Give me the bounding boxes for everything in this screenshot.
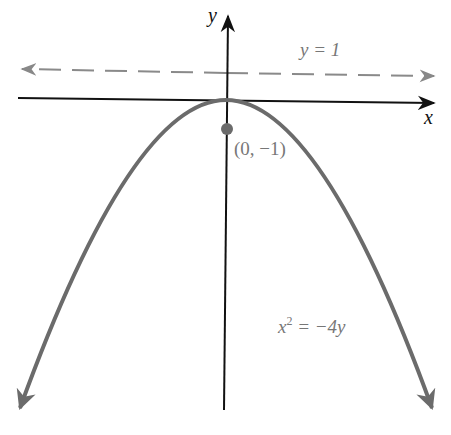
- parabola-diagram: y x y = 1 (0, −1) x2 = −4y: [0, 0, 451, 435]
- directrix-label: y = 1: [298, 39, 340, 60]
- focus-label: (0, −1): [234, 138, 286, 160]
- equation-label-rest: = −4y: [292, 316, 346, 337]
- focus-point: [221, 123, 233, 135]
- y-axis: [224, 16, 228, 410]
- y-axis-label: y: [206, 4, 217, 27]
- directrix-label-text: y = 1: [298, 39, 340, 60]
- x-axis-label: x: [423, 106, 433, 128]
- parabola-curve-left: [20, 100, 226, 408]
- equation-label: x2 = −4y: [277, 314, 346, 337]
